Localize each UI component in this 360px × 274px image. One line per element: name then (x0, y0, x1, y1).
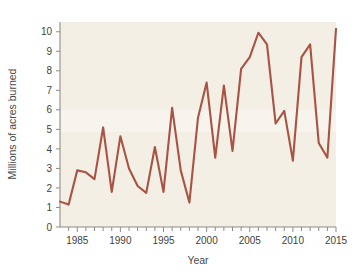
y-tick-label: 2 (46, 183, 52, 194)
y-axis-title: Millions of acres burned (6, 68, 18, 179)
x-tick-label: 2005 (239, 235, 262, 246)
scan-band-overlay (0, 110, 360, 132)
y-tick-label: 10 (41, 26, 53, 37)
x-axis-title: Year (187, 254, 209, 266)
chart-canvas: 012345678910 198519901995200020052010201… (0, 0, 360, 274)
x-tick-label: 1995 (152, 235, 175, 246)
wildfire-acres-line-chart: 012345678910 198519901995200020052010201… (0, 0, 360, 274)
y-tick-label: 6 (46, 104, 52, 115)
y-tick-label: 9 (46, 46, 52, 57)
y-tick-label: 5 (46, 124, 52, 135)
y-tick-label: 0 (46, 222, 52, 233)
x-tick-label: 1990 (109, 235, 132, 246)
x-tick-label: 1985 (66, 235, 89, 246)
y-tick-label: 4 (46, 144, 52, 155)
x-tick-label: 2010 (282, 235, 305, 246)
x-tick-label: 2015 (325, 235, 348, 246)
y-tick-label: 3 (46, 163, 52, 174)
y-tick-label: 1 (46, 202, 52, 213)
x-axis-ticks: 1985199019952000200520102015 (66, 227, 347, 246)
x-tick-label: 2000 (196, 235, 219, 246)
y-tick-label: 8 (46, 65, 52, 76)
y-tick-label: 7 (46, 85, 52, 96)
